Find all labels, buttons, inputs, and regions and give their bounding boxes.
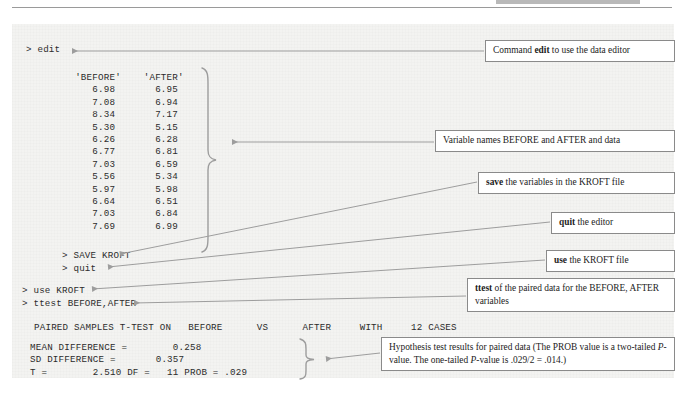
callout-hypothesis-line1: Hypothesis test results for paired data …	[389, 342, 615, 352]
callout-variables-text: Variable names BEFORE and AFTER and data	[443, 135, 620, 145]
callout-edit: Command edit to use the data editor	[485, 40, 675, 62]
console-data-table: 'BEFORE' 'AFTER' 6.98 6.95 7.08 6.94 8.3…	[58, 72, 184, 233]
callout-save-post: the variables in the KROFT file	[503, 177, 624, 187]
callout-use: use the KROFT file	[546, 250, 675, 272]
callout-save: save the variables in the KROFT file	[478, 172, 675, 194]
callout-use-post: the KROFT file	[567, 255, 629, 265]
callout-hypothesis: Hypothesis test results for paired data …	[381, 337, 675, 371]
callout-edit-post: to use the data editor	[550, 45, 630, 55]
console-command-use: > use KROFT	[22, 285, 85, 297]
console-command-ttest: > ttest BEFORE,AFTER	[22, 298, 136, 310]
callout-use-keyword: use	[554, 255, 567, 265]
callout-quit-keyword: quit	[559, 217, 575, 227]
callout-quit-post: the editor	[575, 217, 613, 227]
callout-edit-pre: Command	[493, 45, 534, 55]
callout-save-keyword: save	[486, 177, 503, 187]
console-result-header: PAIRED SAMPLES T-TEST ON BEFORE VS AFTER…	[34, 322, 457, 334]
callout-hypothesis-line2c: -value is .029/2 = .014.)	[476, 355, 566, 365]
callout-variables: Variable names BEFORE and AFTER and data	[435, 130, 675, 152]
callout-ttest: ttest of the paired data for the BEFORE,…	[467, 278, 675, 312]
console-command-edit: > edit	[26, 44, 60, 56]
console-result-block: MEAN DIFFERENCE = 0.258 SD DIFFERENCE = …	[30, 342, 247, 379]
figure-page: > edit 'BEFORE' 'AFTER' 6.98 6.95 7.08 6…	[0, 0, 688, 398]
callout-quit: quit the editor	[551, 212, 675, 234]
callout-ttest-keyword: ttest	[475, 283, 492, 293]
top-gray-band	[496, 0, 640, 4]
header-rule	[12, 7, 672, 8]
callout-ttest-post: of the paired data for the BEFORE, AFTER…	[475, 283, 659, 306]
callout-edit-keyword: edit	[534, 45, 549, 55]
callout-hypothesis-line2a: two-tailed	[617, 342, 657, 352]
console-command-quit: > quit	[62, 263, 96, 275]
console-command-save: > SAVE KROFT	[62, 250, 131, 262]
